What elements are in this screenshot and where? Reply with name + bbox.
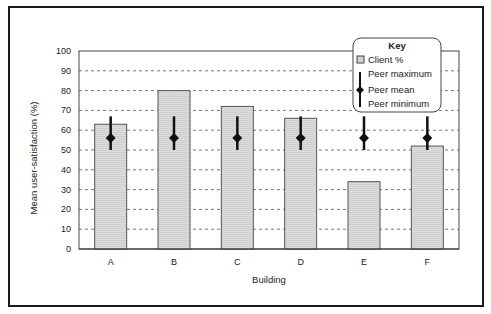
legend-label-peer-max: Peer maximum [368,68,432,79]
legend-label-client: Client % [368,54,404,65]
y-tick-label: 90 [61,66,71,76]
y-tick-label: 30 [61,185,71,195]
x-tick-label: B [171,257,177,267]
x-tick-label: C [234,257,241,267]
bar-B [158,91,190,249]
x-axis-title: Building [252,274,286,285]
y-tick-label: 60 [61,125,71,135]
y-tick-label: 50 [61,145,71,155]
y-tick-label: 0 [66,244,71,254]
y-axis-ticks: 0102030405060708090100 [56,46,71,254]
legend-label-peer-min: Peer minimum [368,98,429,109]
legend: Key Client % Peer maximum Peer mean Peer… [353,38,441,112]
legend-title: Key [388,40,406,51]
y-tick-label: 80 [61,86,71,96]
legend-label-peer-mean: Peer mean [368,84,414,95]
x-tick-label: F [425,257,431,267]
bar-chart: 0102030405060708090100 ABCDEF Building M… [0,0,491,314]
y-tick-label: 20 [61,204,71,214]
y-tick-label: 40 [61,165,71,175]
legend-swatch-client [357,56,364,63]
bar-E [348,182,380,249]
y-axis-title: Mean user-satisfaction (%) [28,102,39,215]
bar-F [411,146,443,249]
x-tick-label: E [361,257,367,267]
x-tick-label: A [108,257,114,267]
x-axis-ticks: ABCDEF [108,257,431,267]
y-tick-label: 10 [61,224,71,234]
y-tick-label: 100 [56,46,71,56]
y-tick-label: 70 [61,105,71,115]
x-tick-label: D [297,257,304,267]
